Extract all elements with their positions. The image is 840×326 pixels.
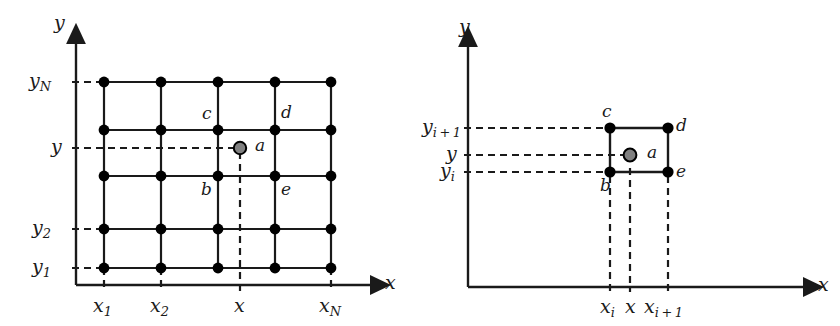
grid-node bbox=[156, 263, 167, 274]
node-label-b: b bbox=[201, 181, 212, 198]
full-grid-drawing bbox=[0, 0, 420, 326]
grid-node bbox=[326, 171, 337, 182]
node-label-e: e bbox=[281, 181, 291, 198]
grid-node bbox=[213, 263, 224, 274]
y-axis-label: y bbox=[459, 17, 470, 36]
node-label-e: e bbox=[676, 163, 686, 180]
x-tick-label-x2: x2 bbox=[150, 296, 169, 319]
node-label-b: b bbox=[600, 177, 611, 194]
grid-node bbox=[213, 224, 224, 235]
cell-node-e bbox=[662, 166, 673, 177]
point-a-marker bbox=[234, 142, 246, 154]
node-label-a: a bbox=[647, 144, 657, 161]
grid-node bbox=[270, 263, 281, 274]
interpolation-figure: y x yN y y2 y1 x1 x2 x xN c d a b e bbox=[0, 0, 840, 326]
x-tick-label-x: x bbox=[234, 296, 245, 319]
y-leader-lines bbox=[464, 128, 628, 172]
grid-node bbox=[156, 125, 167, 136]
grid-node bbox=[326, 263, 337, 274]
axis-lines bbox=[468, 45, 805, 287]
x-tick-label-x: x bbox=[625, 297, 636, 320]
y-tick-label-yi: yi bbox=[440, 161, 455, 184]
point-a-marker bbox=[624, 149, 637, 162]
x-tick-label-x1: x1 bbox=[93, 296, 112, 319]
single-cell-panel: y x yi + 1 y yi xi x xi + 1 c d a b e bbox=[420, 0, 840, 326]
cell-node-c bbox=[604, 122, 615, 133]
grid-node bbox=[156, 171, 167, 182]
grid-node-c bbox=[213, 125, 224, 136]
grid-node-d bbox=[270, 125, 281, 136]
full-grid-panel: y x yN y y2 y1 x1 x2 x xN c d a b e bbox=[0, 0, 420, 326]
grid-node bbox=[99, 125, 110, 136]
grid-node bbox=[213, 77, 224, 88]
y-tick-label-yi1: yi + 1 bbox=[422, 117, 461, 140]
grid-node bbox=[156, 224, 167, 235]
node-label-d: d bbox=[676, 117, 687, 134]
x-axis-label: x bbox=[818, 275, 829, 294]
grid-node bbox=[156, 77, 167, 88]
cell-nodes bbox=[604, 122, 673, 177]
y-axis-label: y bbox=[54, 13, 65, 32]
grid-node bbox=[99, 224, 110, 235]
grid-node bbox=[99, 77, 110, 88]
node-label-d: d bbox=[281, 104, 292, 121]
x-tick-label-xi: xi bbox=[600, 297, 615, 320]
cell-node-d bbox=[662, 122, 673, 133]
x-tick-label-xN: xN bbox=[319, 296, 341, 319]
y-tick-label-y2: y2 bbox=[32, 218, 51, 241]
x-leader-lines bbox=[610, 168, 668, 292]
y-tick-label-y: y bbox=[51, 137, 62, 160]
cell-rectangle bbox=[610, 128, 668, 172]
grid-node bbox=[99, 263, 110, 274]
grid-node bbox=[326, 125, 337, 136]
grid-node bbox=[270, 224, 281, 235]
node-label-a: a bbox=[255, 137, 265, 154]
x-tick-label-xi1: xi + 1 bbox=[644, 297, 683, 320]
grid-node bbox=[270, 77, 281, 88]
node-label-c: c bbox=[202, 105, 212, 122]
node-label-c: c bbox=[602, 103, 612, 120]
x-axis-label: x bbox=[385, 273, 396, 292]
y-tick-label-y1: y1 bbox=[32, 257, 51, 280]
grid-node bbox=[326, 224, 337, 235]
grid-node-e bbox=[270, 171, 281, 182]
grid-node bbox=[99, 171, 110, 182]
single-cell-drawing bbox=[420, 0, 840, 326]
grid-node-b bbox=[213, 171, 224, 182]
y-tick-label-yN: yN bbox=[29, 71, 51, 94]
grid-node bbox=[326, 77, 337, 88]
